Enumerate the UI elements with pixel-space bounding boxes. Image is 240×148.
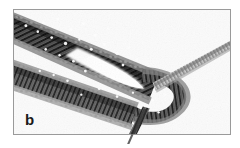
micrograph-image: [14, 10, 230, 134]
tail-filament-overflow: [126, 132, 134, 144]
figure-panel: b: [0, 0, 240, 148]
panel-label: b: [25, 112, 34, 127]
micrograph-frame: b: [13, 9, 231, 135]
